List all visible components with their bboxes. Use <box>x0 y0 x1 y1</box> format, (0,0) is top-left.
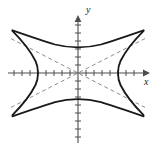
conjugate-hyperbolas-figure: y x <box>0 0 156 149</box>
graph-canvas <box>0 0 156 149</box>
x-axis-label: x <box>144 77 148 87</box>
y-axis-label: y <box>86 5 90 15</box>
